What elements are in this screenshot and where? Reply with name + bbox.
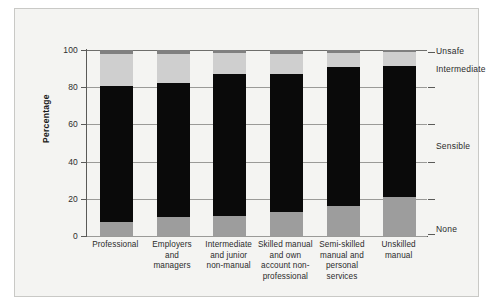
x-axis-label-line: personal	[308, 261, 377, 272]
bar-3[interactable]	[213, 50, 246, 236]
gridline-80	[87, 87, 427, 88]
gridline-40	[87, 162, 427, 163]
y-tick-label-40: 40	[68, 157, 78, 167]
bar-1[interactable]	[100, 50, 133, 236]
bar-segment-unsafe[interactable]	[100, 50, 133, 54]
bar-segment-intermediate[interactable]	[213, 53, 246, 74]
x-axis-label-line: Unskilled	[364, 240, 433, 251]
bar-4[interactable]	[270, 50, 303, 236]
legend-tick-mark	[428, 52, 435, 53]
x-axis-label-line: services	[308, 272, 377, 283]
bar-segment-intermediate[interactable]	[157, 54, 190, 83]
y-tick-label-60: 60	[68, 119, 78, 129]
bar-segment-sensible[interactable]	[157, 83, 190, 218]
bar-5[interactable]	[327, 50, 360, 236]
bar-segment-intermediate[interactable]	[383, 52, 416, 66]
gridline-100	[87, 50, 427, 51]
bar-segment-sensible[interactable]	[213, 74, 246, 216]
legend-tick-mark	[428, 234, 435, 235]
y-tick-mark-40	[81, 162, 86, 163]
y-tick-label-100: 100	[63, 45, 78, 55]
bar-segment-intermediate[interactable]	[270, 54, 303, 74]
bar-segment-sensible[interactable]	[100, 86, 133, 222]
bar-segment-none[interactable]	[100, 222, 133, 236]
x-axis-label-line: manual	[364, 251, 433, 262]
legend-label-sensible[interactable]: Sensible	[436, 141, 470, 151]
gridline-0	[87, 236, 427, 237]
bar-segment-none[interactable]	[383, 197, 416, 236]
bar-segment-sensible[interactable]	[383, 66, 416, 197]
bar-segment-unsafe[interactable]	[383, 50, 416, 52]
y-tick-label-20: 20	[68, 194, 78, 204]
legend-tick-mark	[428, 162, 435, 163]
chart-panel: Percentage 020406080100 ProfessionalEmpl…	[14, 8, 479, 297]
bar-segment-none[interactable]	[270, 212, 303, 236]
plot-area: 020406080100	[87, 50, 427, 236]
legend-tick-mark	[428, 199, 435, 200]
y-tick-label-80: 80	[68, 82, 78, 92]
legend-tick-mark	[428, 124, 435, 125]
bar-segment-none[interactable]	[213, 216, 246, 236]
y-tick-mark-20	[81, 199, 86, 200]
y-tick-mark-100	[81, 50, 86, 51]
bar-segment-intermediate[interactable]	[327, 53, 360, 67]
y-tick-mark-80	[81, 87, 86, 88]
y-axis-title: Percentage	[41, 94, 51, 143]
bar-segment-none[interactable]	[157, 217, 190, 236]
bar-segment-unsafe[interactable]	[213, 50, 246, 53]
y-tick-mark-0	[81, 236, 86, 237]
legend-label-none[interactable]: None	[436, 224, 457, 234]
bar-segment-unsafe[interactable]	[327, 50, 360, 53]
bar-2[interactable]	[157, 50, 190, 236]
bar-segment-unsafe[interactable]	[157, 50, 190, 54]
legend-label-intermediate[interactable]: Intermediate	[436, 64, 486, 74]
legend-label-unsafe[interactable]: Unsafe	[436, 46, 464, 56]
gridline-60	[87, 124, 427, 125]
bar-segment-intermediate[interactable]	[100, 54, 133, 87]
chart-figure: Percentage 020406080100 ProfessionalEmpl…	[0, 0, 493, 306]
y-tick-mark-60	[81, 124, 86, 125]
bar-segment-none[interactable]	[327, 206, 360, 236]
legend-tick-mark	[428, 87, 435, 88]
bar-segment-sensible[interactable]	[327, 67, 360, 207]
x-axis-label-6: Unskilledmanual	[364, 240, 433, 261]
bar-segment-unsafe[interactable]	[270, 50, 303, 54]
gridline-20	[87, 199, 427, 200]
y-tick-label-0: 0	[73, 231, 78, 241]
bar-segment-sensible[interactable]	[270, 74, 303, 212]
bar-6[interactable]	[383, 50, 416, 236]
